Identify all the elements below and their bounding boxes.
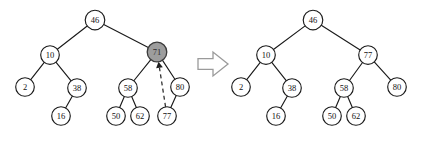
tree-node[interactable]: 50 xyxy=(107,107,126,126)
tree-node[interactable]: 77 xyxy=(359,46,378,65)
tree-node-label: 80 xyxy=(176,82,184,92)
tree-node-label: 46 xyxy=(91,15,99,25)
tree-edge xyxy=(66,96,73,108)
tree-node[interactable]: 10 xyxy=(257,46,276,65)
tree-edge xyxy=(348,97,353,108)
tree-node-label: 16 xyxy=(57,111,65,121)
tree-node-label: 50 xyxy=(328,111,336,121)
tree-node[interactable]: 2 xyxy=(232,78,251,97)
tree-edge xyxy=(31,62,45,79)
tree-node-label: 46 xyxy=(309,15,317,25)
tree-node-label: 62 xyxy=(352,111,360,121)
tree-edge xyxy=(56,62,71,81)
tree-edge xyxy=(272,62,286,80)
right-block-arrow-shape xyxy=(198,52,228,76)
tree-node-label: 10 xyxy=(46,50,54,60)
tree-node[interactable]: 16 xyxy=(267,107,286,126)
tree-edge xyxy=(321,25,360,50)
tree-node[interactable]: 2 xyxy=(16,78,35,97)
tree-node[interactable]: 46 xyxy=(303,10,323,30)
tree-edge xyxy=(134,60,151,81)
dashed-replacement-link xyxy=(159,68,165,107)
tree-node-label: 80 xyxy=(393,82,401,92)
tree-node-label: 77 xyxy=(364,50,372,60)
right-block-arrow-icon xyxy=(198,52,228,76)
tree-edge xyxy=(336,97,341,108)
tree-edge xyxy=(374,62,391,80)
tree-node[interactable]: 10 xyxy=(41,46,60,65)
tree-node[interactable]: 38 xyxy=(68,79,87,98)
tree-edge xyxy=(162,60,175,79)
tree-node[interactable]: 46 xyxy=(85,10,105,30)
tree-node-label: 58 xyxy=(124,83,132,93)
tree-edge xyxy=(171,95,176,107)
figure-canvas: 461071238588016506277 461077238588016506… xyxy=(0,0,421,143)
panel-after-tree: 4610772385880165062 xyxy=(232,10,407,125)
tree-node[interactable]: 80 xyxy=(388,78,407,97)
tree-node[interactable]: 77 xyxy=(158,107,177,126)
tree-node-label: 71 xyxy=(153,47,161,57)
tree-node-label: 58 xyxy=(340,83,348,93)
tree-edge xyxy=(247,62,261,79)
tree-node-label: 62 xyxy=(136,111,144,121)
tree-edge xyxy=(104,24,149,47)
tree-node[interactable]: 80 xyxy=(171,78,190,97)
tree-edge xyxy=(273,26,305,50)
tree-transformation-figure: 461071238588016506277 461077238588016506… xyxy=(0,0,421,143)
tree-node[interactable]: 50 xyxy=(323,107,342,126)
tree-node-label: 16 xyxy=(272,111,280,121)
panel-before-tree: 461071238588016506277 xyxy=(16,10,190,125)
tree-node[interactable]: 58 xyxy=(119,79,138,98)
tree-node-label: 10 xyxy=(262,50,270,60)
tree-node-label: 2 xyxy=(23,82,27,92)
tree-edge xyxy=(120,97,125,108)
tree-edge xyxy=(132,97,137,108)
tree-edge xyxy=(349,63,362,81)
tree-node-label: 50 xyxy=(112,111,120,121)
dashed-link-arrowhead-icon xyxy=(156,62,163,69)
tree-node-label: 2 xyxy=(239,82,243,92)
tree-node[interactable]: 71 xyxy=(147,42,167,62)
tree-node[interactable]: 62 xyxy=(347,107,366,126)
tree-node[interactable]: 62 xyxy=(131,107,150,126)
tree-node-label: 77 xyxy=(163,111,171,121)
tree-node[interactable]: 16 xyxy=(52,107,71,126)
tree-node[interactable]: 58 xyxy=(335,79,354,98)
tree-node[interactable]: 38 xyxy=(283,79,302,98)
tree-node-label: 38 xyxy=(288,83,296,93)
tree-node-label: 38 xyxy=(73,83,81,93)
tree-edge xyxy=(281,96,288,108)
tree-edge xyxy=(57,26,87,49)
